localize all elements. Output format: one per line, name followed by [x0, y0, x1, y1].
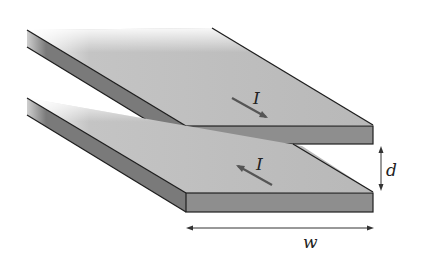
current-label-bottom: I — [255, 154, 263, 174]
parallel-plates-diagram: I I d w — [0, 0, 424, 258]
separation-dimension: d — [379, 146, 398, 191]
width-label: w — [303, 232, 318, 252]
width-dimension: w — [186, 226, 374, 253]
current-label-top: I — [252, 88, 260, 108]
separation-label: d — [386, 160, 397, 180]
